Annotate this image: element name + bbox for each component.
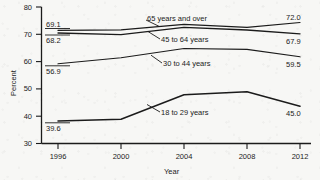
value-label-65-and-over-start: 69.1 [46, 21, 61, 29]
y-tick-label-80: 80 [14, 4, 32, 12]
x-tick-label-2012: 2012 [283, 153, 317, 161]
y-axis-ticks [36, 7, 42, 144]
y-tick-label-60: 60 [14, 58, 32, 66]
chart-container: 80 70 60 50 40 30 1996 2000 2004 2008 20… [0, 0, 320, 180]
x-tick-label-2008: 2008 [230, 153, 264, 161]
series-annotation-30-to-44: 30 to 44 years [163, 60, 211, 68]
value-label-45-to-64-start: 68.2 [46, 37, 61, 45]
value-label-18-to-29-start: 39.6 [46, 125, 61, 133]
value-label-30-to-44-end: 59.5 [286, 61, 301, 69]
x-axis-title: Year [164, 168, 179, 176]
value-label-30-to-44-start: 56.9 [46, 68, 61, 76]
series-annotation-18-to-29: 18 to 29 years [161, 109, 209, 117]
value-label-45-to-64-end: 67.9 [286, 38, 301, 46]
x-tick-label-2004: 2004 [167, 153, 201, 161]
series-annotation-65-and-over: 65 years and over [147, 15, 207, 23]
y-tick-label-70: 70 [14, 31, 32, 39]
x-axis-ticks [58, 144, 300, 150]
x-tick-label-1996: 1996 [41, 153, 75, 161]
series-line-45-to-64 [58, 27, 300, 34]
value-label-65-and-over-end: 72.0 [286, 14, 301, 22]
series-annotation-45-to-64: 45 to 64 years [161, 36, 209, 44]
y-tick-label-40: 40 [14, 113, 32, 121]
series-line-65-and-over [58, 23, 300, 31]
value-label-18-to-29-end: 45.0 [286, 110, 301, 118]
y-tick-label-30: 30 [14, 140, 32, 148]
annotation-leader-lines [146, 20, 162, 112]
y-axis-title: Percent [10, 70, 18, 96]
x-tick-label-2000: 2000 [104, 153, 138, 161]
